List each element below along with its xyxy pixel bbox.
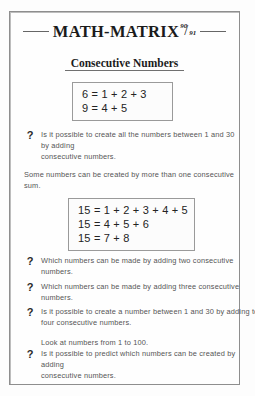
- first-example-box: 6 = 1 + 2 + 3 9 = 4 + 5: [72, 82, 173, 121]
- question-5-text: Is it possible to predict which numbers …: [41, 348, 242, 381]
- equation-line: 15 = 1 + 2 + 3 + 4 + 5: [78, 203, 185, 217]
- question-4-line-1: Is it possible to create a number betwee…: [41, 306, 255, 317]
- question-4-line-2: four consecutive numbers.: [41, 317, 242, 328]
- subtitle-container: Consecutive Numbers: [10, 53, 239, 71]
- question-4-row: ? Is it possible to create a number betw…: [24, 306, 242, 328]
- statement-1-text: Some numbers can be created by more than…: [24, 169, 246, 191]
- question-4-text: Is it possible to create a number betwee…: [41, 306, 242, 328]
- question-5-line-2: consecutive numbers.: [41, 370, 242, 381]
- header-rule-left: [23, 31, 49, 32]
- issue-denominator: 91: [189, 29, 196, 37]
- question-marker-icon: ?: [24, 306, 36, 318]
- question-3-row: ? Which numbers can be made by adding th…: [24, 281, 242, 303]
- question-5-line-1: Is it possible to predict which numbers …: [41, 348, 242, 370]
- question-1-line-2: consecutive numbers.: [41, 151, 242, 162]
- question-marker-icon: ?: [24, 348, 36, 360]
- equation-line: 15 = 7 + 8: [78, 231, 185, 245]
- question-5-lead-text: Look at numbers from 1 to 100.: [41, 337, 242, 348]
- header-rule-right: [200, 31, 226, 32]
- worksheet-page: MATH-MATRIX 90 / 91 Consecutive Numbers …: [0, 0, 255, 396]
- question-marker-icon: ?: [24, 281, 36, 293]
- question-marker-icon: ?: [24, 129, 36, 141]
- second-example-box: 15 = 1 + 2 + 3 + 4 + 5 15 = 4 + 5 + 6 15…: [68, 198, 195, 251]
- question-3-text: Which numbers can be made by adding thre…: [41, 281, 242, 303]
- equation-line: 15 = 4 + 5 + 6: [78, 217, 185, 231]
- question-marker-icon: ?: [24, 255, 36, 267]
- question-5-row: Look at numbers from 1 to 100. ? Is it p…: [24, 337, 242, 381]
- issue-fraction: 90 / 91: [180, 24, 197, 41]
- question-2-row: ? Which numbers can be made by adding tw…: [24, 255, 242, 277]
- equation-line: 9 = 4 + 5: [82, 101, 163, 115]
- issue-slash: /: [184, 23, 188, 39]
- page-header: MATH-MATRIX 90 / 91: [10, 22, 239, 42]
- question-1-row: ? Is it possible to create all the numbe…: [24, 129, 242, 162]
- equation-line: 6 = 1 + 2 + 3: [82, 87, 163, 101]
- page-subtitle: Consecutive Numbers: [65, 57, 185, 71]
- page-title: MATH-MATRIX: [53, 22, 179, 42]
- page-border-frame: MATH-MATRIX 90 / 91 Consecutive Numbers …: [9, 11, 240, 385]
- question-2-text: Which numbers can be made by adding two …: [41, 255, 242, 277]
- question-1-text: Is it possible to create all the numbers…: [41, 129, 242, 162]
- question-1-line-1: Is it possible to create all the numbers…: [41, 129, 242, 151]
